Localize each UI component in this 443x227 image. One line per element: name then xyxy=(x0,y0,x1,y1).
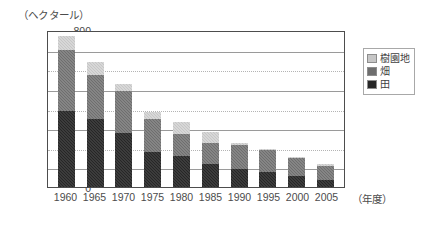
x-axis-unit-label: （年度） xyxy=(352,191,392,206)
bar-segment xyxy=(115,133,132,187)
x-tick-label: 1965 xyxy=(80,191,109,203)
bar-segment xyxy=(144,119,161,152)
chart-container: （ヘクタール） 8007006005004003002001000 196019… xyxy=(0,0,443,227)
bar-series-group xyxy=(48,32,344,187)
bar-column xyxy=(58,32,75,187)
x-tick-label: 1975 xyxy=(138,191,167,203)
bar-segment xyxy=(58,50,75,112)
bar-column xyxy=(144,32,161,187)
legend: 樹園地畑田 xyxy=(363,48,415,95)
x-tick-label: 1970 xyxy=(109,191,138,203)
legend-item: 畑 xyxy=(367,65,410,78)
legend-item: 田 xyxy=(367,78,410,91)
x-tick-label: 1980 xyxy=(167,191,196,203)
legend-label: 田 xyxy=(380,80,390,90)
legend-item: 樹園地 xyxy=(367,52,410,65)
bar-column xyxy=(317,32,334,187)
bar-segment xyxy=(288,176,305,187)
x-tick-label: 1985 xyxy=(196,191,225,203)
bar-column xyxy=(231,32,248,187)
bar-segment xyxy=(58,36,75,49)
plot-area xyxy=(47,31,345,188)
bar-segment xyxy=(87,119,104,187)
bar-segment xyxy=(317,180,334,187)
legend-swatch xyxy=(367,67,377,76)
bar-segment xyxy=(144,112,161,119)
bar-segment xyxy=(202,132,219,143)
bar-segment xyxy=(144,152,161,187)
bar-segment xyxy=(173,122,190,133)
bar-column xyxy=(87,32,104,187)
bar-segment xyxy=(317,166,334,179)
bar-segment xyxy=(173,134,190,157)
legend-label: 樹園地 xyxy=(380,54,410,64)
bar-segment xyxy=(231,169,248,187)
bar-segment xyxy=(259,150,276,172)
bar-segment xyxy=(288,158,305,176)
legend-swatch xyxy=(367,80,377,89)
bar-column xyxy=(173,32,190,187)
x-tick-label: 1960 xyxy=(51,191,80,203)
bar-segment xyxy=(231,145,248,169)
bar-segment xyxy=(115,84,132,91)
bar-segment xyxy=(58,111,75,187)
bar-segment xyxy=(173,156,190,187)
x-tick-label: 2000 xyxy=(283,191,312,203)
bar-segment xyxy=(202,143,219,165)
bar-column xyxy=(259,32,276,187)
x-axis-tick-labels: 1960196519701975198019851990199520002005 xyxy=(47,191,345,207)
legend-swatch xyxy=(367,54,377,63)
x-tick-label: 2005 xyxy=(312,191,341,203)
x-tick-label: 1995 xyxy=(254,191,283,203)
legend-label: 畑 xyxy=(380,67,390,77)
bar-segment xyxy=(115,91,132,133)
bar-column xyxy=(115,32,132,187)
y-axis-unit-label: （ヘクタール） xyxy=(18,7,89,22)
bar-column xyxy=(288,32,305,187)
bar-segment xyxy=(87,62,104,74)
bar-segment xyxy=(259,172,276,187)
x-tick-label: 1990 xyxy=(225,191,254,203)
bar-segment xyxy=(87,75,104,120)
bar-column xyxy=(202,32,219,187)
bar-segment xyxy=(202,164,219,187)
